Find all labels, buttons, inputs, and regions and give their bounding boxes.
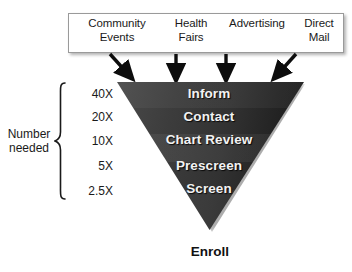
- multiplier-screen: 2.5X: [69, 184, 113, 198]
- multiplier-inform: 40X: [69, 87, 113, 101]
- source-label-community-events: Community Events: [75, 17, 159, 44]
- multiplier-contact: 20X: [69, 110, 113, 124]
- source-label-advertising: Advertising: [219, 17, 295, 31]
- number-needed-label: Number needed: [2, 127, 56, 155]
- recruitment-sources-box: Community Events Health Fairs Advertisin…: [68, 13, 344, 53]
- multiplier-chart-review: 10X: [69, 134, 113, 148]
- outcome-label-enroll: Enroll: [150, 244, 270, 259]
- funnel-triangle: Inform Contact Chart Review Prescreen Sc…: [113, 80, 305, 232]
- source-label-health-fairs: Health Fairs: [163, 17, 219, 44]
- stage-label-chart-review: Chart Review: [113, 132, 305, 147]
- source-label-direct-mail: Direct Mail: [295, 17, 343, 44]
- recruitment-funnel-diagram: Community Events Health Fairs Advertisin…: [0, 0, 352, 272]
- stage-label-screen: Screen: [113, 181, 305, 196]
- arrow-community-events: [110, 54, 128, 74]
- multiplier-prescreen: 5X: [69, 159, 113, 173]
- stage-label-contact: Contact: [113, 109, 305, 124]
- arrow-direct-mail: [278, 54, 296, 74]
- stage-label-prescreen: Prescreen: [113, 158, 305, 173]
- stage-label-inform: Inform: [113, 86, 305, 101]
- funnel-body: [117, 82, 304, 230]
